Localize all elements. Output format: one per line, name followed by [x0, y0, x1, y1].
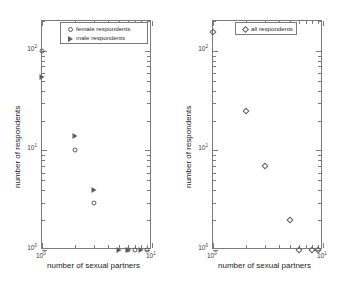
y-axis-minor-tick — [318, 121, 321, 122]
y-axis-minor-tick — [147, 121, 150, 122]
y-axis-major-tick — [316, 51, 321, 52]
y-axis-minor-tick — [213, 91, 216, 92]
y-axis-minor-tick — [42, 166, 45, 167]
x-tick-label-1: 100 — [207, 253, 217, 260]
y-axis-minor-tick — [318, 160, 321, 161]
y-axis-minor-tick — [147, 203, 150, 204]
y-axis-minor-tick — [213, 180, 216, 181]
x-axis-minor-tick — [312, 21, 313, 24]
y-axis-minor-tick — [213, 155, 216, 156]
x-tick-label-1: 100 — [36, 253, 46, 260]
data-point-diamond — [243, 107, 250, 114]
data-point-triangle — [92, 187, 97, 193]
y-axis-minor-tick — [318, 166, 321, 167]
y-axis-minor-tick — [318, 103, 321, 104]
y-axis-minor-tick — [42, 190, 45, 191]
y-axis-minor-tick — [42, 203, 45, 204]
legend-label-all: all respondents — [251, 26, 293, 32]
y-axis-major-tick — [316, 150, 321, 151]
data-point-triangle — [40, 74, 45, 80]
y-axis-minor-tick — [147, 56, 150, 57]
x-axis-major-tick — [42, 243, 43, 248]
legend-left: female respondents male respondents — [60, 22, 148, 44]
x-axis-minor-tick — [108, 245, 109, 248]
y-axis-minor-tick — [213, 190, 216, 191]
y-axis-minor-tick — [147, 91, 150, 92]
legend-label-male: male respondents — [76, 35, 125, 41]
data-point-circle — [73, 148, 78, 153]
y-axis-minor-tick — [42, 160, 45, 161]
y-axis-minor-tick — [318, 73, 321, 74]
x-axis-minor-tick — [290, 245, 291, 248]
y-axis-minor-tick — [213, 103, 216, 104]
y-axis-title-left: number of respondents — [14, 106, 22, 188]
y-axis-minor-tick — [318, 173, 321, 174]
y-axis-minor-tick — [147, 173, 150, 174]
y-axis-minor-tick — [147, 73, 150, 74]
x-axis-major-tick — [323, 243, 324, 248]
y-axis-minor-tick — [147, 155, 150, 156]
x-axis-title-left: number of sexual partners — [47, 262, 140, 270]
y-axis-minor-tick — [42, 81, 45, 82]
y-axis-minor-tick — [213, 173, 216, 174]
y-axis-major-tick — [145, 150, 150, 151]
y-axis-minor-tick — [213, 121, 216, 122]
x-axis-major-tick — [213, 243, 214, 248]
plot-frame-right — [212, 20, 322, 249]
y-axis-minor-tick — [318, 56, 321, 57]
legend-label-female: female respondents — [76, 26, 130, 32]
y-axis-minor-tick — [213, 160, 216, 161]
y-axis-minor-tick — [213, 73, 216, 74]
panel-right: 102 101 100 100 101 number of sexual par… — [177, 0, 354, 289]
y-axis-minor-tick — [42, 103, 45, 104]
y-tick-label-1: 100 — [190, 245, 208, 252]
y-tick-label-100: 102 — [190, 46, 208, 53]
y-axis-minor-tick — [42, 121, 45, 122]
data-point-circle — [132, 248, 137, 253]
data-point-diamond — [295, 246, 302, 253]
data-point-triangle — [125, 247, 130, 253]
y-axis-minor-tick — [318, 61, 321, 62]
x-axis-major-tick — [213, 21, 214, 26]
data-point-circle — [92, 200, 97, 205]
y-axis-minor-tick — [147, 61, 150, 62]
y-tick-label-1: 100 — [19, 245, 37, 252]
y-axis-minor-tick — [42, 66, 45, 67]
y-axis-minor-tick — [147, 66, 150, 67]
x-axis-minor-tick — [299, 21, 300, 24]
y-axis-minor-tick — [213, 66, 216, 67]
y-axis-major-tick — [145, 51, 150, 52]
y-axis-minor-tick — [147, 160, 150, 161]
plot-area-right — [213, 21, 321, 248]
y-axis-minor-tick — [42, 91, 45, 92]
y-axis-minor-tick — [213, 56, 216, 57]
plot-area-left — [42, 21, 150, 248]
triangle-marker-icon — [64, 36, 76, 42]
y-axis-minor-tick — [213, 220, 216, 221]
data-point-triangle — [139, 247, 144, 253]
figure-canvas: 102 101 100 100 101 number of sexual par… — [0, 0, 354, 289]
y-axis-minor-tick — [318, 155, 321, 156]
panel-left: 102 101 100 100 101 number of sexual par… — [0, 0, 177, 289]
y-axis-minor-tick — [318, 180, 321, 181]
data-point-diamond — [262, 162, 269, 169]
y-axis-major-tick — [213, 150, 218, 151]
x-tick-label-10: 101 — [146, 253, 156, 260]
y-axis-minor-tick — [213, 61, 216, 62]
y-axis-minor-tick — [318, 81, 321, 82]
data-point-diamond — [209, 28, 216, 35]
y-axis-minor-tick — [147, 180, 150, 181]
x-tick-label-10: 101 — [317, 253, 327, 260]
y-axis-minor-tick — [213, 203, 216, 204]
y-tick-label-100: 102 — [19, 46, 37, 53]
x-axis-major-tick — [152, 21, 153, 26]
x-axis-minor-tick — [279, 245, 280, 248]
y-axis-minor-tick — [147, 166, 150, 167]
x-axis-minor-tick — [318, 21, 319, 24]
x-axis-title-right: number of sexual partners — [218, 262, 311, 270]
y-axis-minor-tick — [318, 220, 321, 221]
y-axis-minor-tick — [42, 56, 45, 57]
circle-marker-icon — [64, 27, 76, 32]
y-axis-minor-tick — [318, 91, 321, 92]
x-axis-minor-tick — [75, 245, 76, 248]
